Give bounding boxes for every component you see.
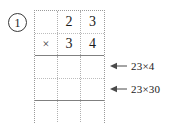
cell-partial2-ones[interactable] <box>81 79 104 101</box>
left-arrow-icon <box>110 85 127 93</box>
cell-total-hundreds[interactable] <box>35 101 58 123</box>
cell-partial2-hundreds[interactable] <box>35 79 58 101</box>
multiplication-worksheet: 1 2 3 × 3 4 <box>0 0 173 123</box>
cell-multiplicand-hundreds[interactable] <box>35 11 58 33</box>
grid-row-partial-product-1 <box>35 56 104 79</box>
cell-partial1-ones[interactable] <box>81 56 104 78</box>
cell-multiplier-ones[interactable]: 4 <box>81 34 104 56</box>
cell-total-tens[interactable] <box>58 101 81 123</box>
cell-partial1-tens[interactable] <box>58 56 81 78</box>
cell-partial2-tens[interactable] <box>58 79 81 101</box>
annotation-label-partial-1: 23×4 <box>131 61 155 72</box>
grid-row-partial-product-2 <box>35 79 104 102</box>
cell-multiplicand-ones[interactable]: 3 <box>81 11 104 33</box>
left-arrow-icon <box>110 62 127 70</box>
grid-row-total <box>35 101 104 123</box>
multiplication-grid: 2 3 × 3 4 <box>34 10 105 123</box>
grid-row-multiplier: × 3 4 <box>35 34 104 57</box>
problem-number-badge: 1 <box>8 13 27 32</box>
cell-multiplier-tens[interactable]: 3 <box>58 34 81 56</box>
cell-multiplication-operator: × <box>35 34 58 56</box>
cell-total-ones[interactable] <box>81 101 104 123</box>
annotation-partial-product-2: 23×30 <box>110 83 160 95</box>
problem-number-label: 1 <box>15 17 21 29</box>
annotation-label-partial-2: 23×30 <box>131 84 160 95</box>
cell-partial1-hundreds[interactable] <box>35 56 58 78</box>
annotation-partial-product-1: 23×4 <box>110 60 155 72</box>
grid-row-multiplicand: 2 3 <box>35 11 104 34</box>
cell-multiplicand-tens[interactable]: 2 <box>58 11 81 33</box>
